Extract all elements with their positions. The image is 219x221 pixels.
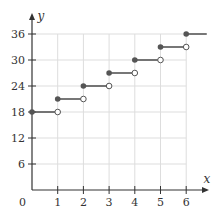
y-tick-label: 6 bbox=[18, 158, 25, 171]
closed-dot bbox=[81, 83, 87, 89]
y-tick-label: 12 bbox=[11, 132, 25, 145]
open-dot bbox=[158, 57, 164, 63]
y-axis-arrow-icon bbox=[29, 13, 35, 20]
open-dot bbox=[55, 109, 61, 115]
x-tick-label: 5 bbox=[157, 196, 164, 209]
tick-labels: 123456612182430360xy bbox=[11, 9, 211, 209]
y-tick-label: 30 bbox=[11, 54, 25, 67]
x-tick-label: 3 bbox=[106, 196, 113, 209]
y-axis-label: y bbox=[37, 9, 45, 23]
closed-dot bbox=[29, 109, 35, 115]
origin-label: 0 bbox=[19, 196, 26, 209]
open-dot bbox=[106, 83, 112, 89]
open-dot bbox=[132, 70, 138, 76]
y-tick-label: 36 bbox=[11, 28, 25, 41]
axes bbox=[28, 13, 209, 194]
x-tick-label: 6 bbox=[183, 196, 190, 209]
closed-dot bbox=[106, 70, 112, 76]
closed-dot bbox=[55, 96, 61, 102]
open-dot bbox=[183, 44, 189, 50]
y-tick-label: 18 bbox=[11, 106, 25, 119]
closed-dot bbox=[158, 44, 164, 50]
step-chart: 123456612182430360xy bbox=[0, 0, 219, 221]
closed-dot bbox=[183, 31, 189, 37]
x-axis-label: x bbox=[204, 172, 211, 186]
x-axis-arrow-icon bbox=[202, 187, 209, 193]
open-dot bbox=[81, 96, 87, 102]
closed-dot bbox=[132, 57, 138, 63]
x-tick-label: 4 bbox=[131, 196, 138, 209]
x-tick-label: 1 bbox=[54, 196, 61, 209]
x-tick-label: 2 bbox=[80, 196, 87, 209]
step-segments bbox=[29, 31, 207, 115]
y-tick-label: 24 bbox=[11, 80, 25, 93]
